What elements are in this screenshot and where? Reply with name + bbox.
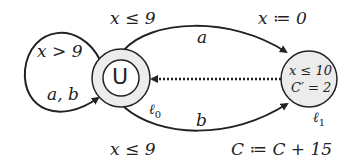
state-l1-name: ℓ1 bbox=[313, 110, 325, 128]
l1-name-sub: 1 bbox=[319, 117, 325, 128]
top-update: x ≔ 0 bbox=[258, 10, 307, 27]
bottom-guard: x ≤ 9 bbox=[110, 141, 155, 158]
state-l1[interactable] bbox=[281, 51, 337, 107]
self-loop-action: a, b bbox=[47, 86, 79, 103]
top-action: a bbox=[197, 29, 207, 46]
state-l0-urgent-label: U bbox=[112, 66, 128, 88]
top-guard: x ≤ 9 bbox=[110, 10, 155, 27]
state-l1-invariant: x ≤ 10 bbox=[289, 64, 332, 77]
state-l0-name: ℓ0 bbox=[149, 102, 161, 120]
state-l1-rate: C′ = 2 bbox=[291, 81, 331, 94]
bottom-action: b bbox=[196, 112, 207, 129]
bottom-update: C ≔ C + 15 bbox=[231, 141, 332, 158]
l0-name-sub: 0 bbox=[155, 109, 161, 120]
self-loop-guard: x > 9 bbox=[37, 43, 82, 60]
